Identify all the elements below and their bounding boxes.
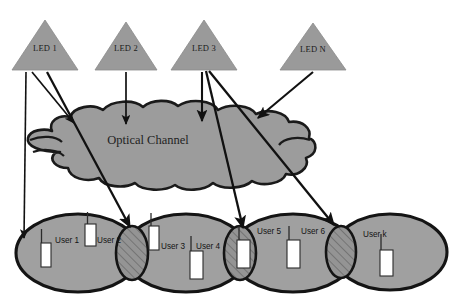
user-2-label: User 2	[97, 236, 122, 245]
user-k-phone-icon	[380, 250, 393, 276]
link-led1-to-user1	[24, 72, 26, 238]
led-n[interactable]: LED N	[280, 23, 346, 70]
user-3-phone-icon	[149, 226, 159, 250]
user-6-label: User 6	[301, 227, 326, 236]
user-2-phone-icon	[85, 224, 96, 246]
user-6-phone-icon	[287, 240, 300, 268]
user-5-phone-icon	[237, 240, 250, 268]
user-1-label: User 1	[55, 236, 80, 245]
led-n-label: LED N	[300, 44, 326, 54]
link-led1-to-channel	[32, 72, 74, 123]
user-4-phone-icon	[190, 251, 203, 279]
led-2-label: LED 2	[114, 43, 138, 53]
user-k-label: User k	[363, 230, 388, 239]
led-1-label: LED 1	[33, 43, 57, 53]
user-1-phone-icon	[41, 243, 51, 267]
vlc-network-diagram: Optical Channel	[0, 0, 451, 308]
led-2[interactable]: LED 2	[95, 22, 157, 70]
user-5-label: User 5	[257, 227, 282, 236]
link-ledn-to-channel	[258, 72, 313, 118]
user-3-label: User 3	[161, 242, 186, 251]
optical-channel-label: Optical Channel	[107, 133, 189, 147]
led-3[interactable]: LED 3	[171, 20, 237, 70]
led-transmitters: LED 1 LED 2 LED 3 LED N	[12, 20, 346, 70]
led-3-label: LED 3	[192, 43, 216, 53]
optical-channel-cloud: Optical Channel	[28, 101, 316, 190]
user-4-label: User 4	[196, 242, 221, 251]
led-1[interactable]: LED 1	[12, 20, 78, 70]
diagram-canvas: Optical Channel	[0, 0, 451, 308]
